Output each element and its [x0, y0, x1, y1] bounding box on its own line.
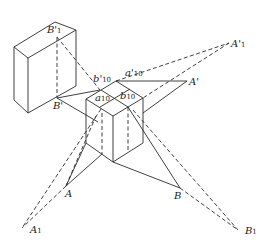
- dash-b10-B1: [133, 110, 238, 230]
- label-B1: B1: [244, 225, 257, 236]
- line-box-B: [113, 162, 180, 188]
- wall-bottom-left: [14, 100, 28, 113]
- label-B1-prime: B'1: [46, 24, 62, 35]
- line-box-A: [66, 143, 86, 186]
- wall-bottom-front: [28, 86, 76, 113]
- label-A1: A1: [29, 224, 42, 235]
- dash-B-B1: [180, 188, 238, 230]
- diagram-canvas: B'1 b'10 a'10 A'1 a10 b10 A' B' A B A1 B…: [0, 0, 259, 249]
- label-A: A: [64, 188, 72, 199]
- box-bottom-right: [113, 143, 143, 162]
- wall-box: [14, 22, 76, 113]
- wall-top-face: [14, 22, 76, 58]
- label-b10-prime: b'10: [93, 73, 111, 84]
- line-Ap-box: [143, 81, 187, 113]
- construction-lines: [22, 37, 238, 230]
- line-Bp-box: [57, 98, 98, 122]
- dash-A1-1: [22, 109, 101, 228]
- label-B-prime: B': [52, 100, 63, 111]
- dash-A1p-box: [143, 43, 229, 98]
- label-a10-prime: a'10: [125, 67, 143, 78]
- box-bottom-left: [86, 143, 113, 162]
- label-A-prime: A': [188, 76, 199, 87]
- label-a10: a10: [95, 92, 110, 103]
- label-A1-prime: A'1: [230, 38, 245, 49]
- label-B: B: [173, 190, 181, 201]
- line-A-box2: [66, 154, 102, 186]
- dash-A-A1: [22, 186, 66, 228]
